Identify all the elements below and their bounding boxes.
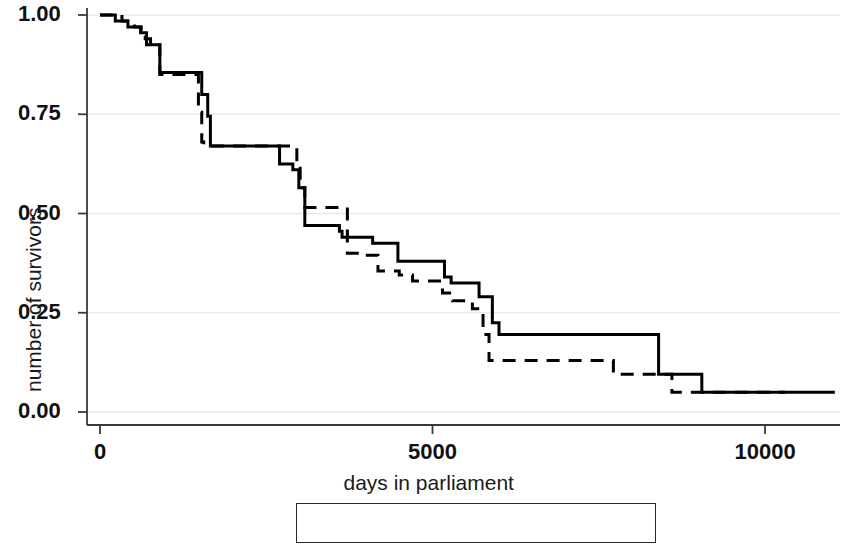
plot-area [0, 0, 854, 547]
gridlines [87, 15, 840, 412]
axis-ticks [78, 15, 765, 434]
survival-chart-figure: 1.00 0.75 0.50 0.25 0.00 0 5000 10000 nu… [0, 0, 854, 547]
legend: female male [296, 503, 656, 543]
survival-curves [100, 15, 835, 392]
curve-female [100, 15, 835, 392]
axis-lines [87, 8, 840, 425]
